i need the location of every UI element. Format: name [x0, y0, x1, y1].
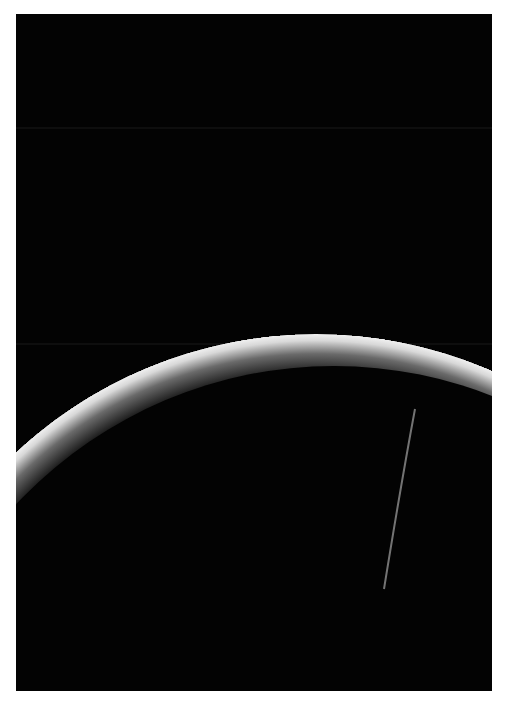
space-photo: [16, 14, 492, 691]
planet-crescent-graphic: [16, 14, 492, 691]
